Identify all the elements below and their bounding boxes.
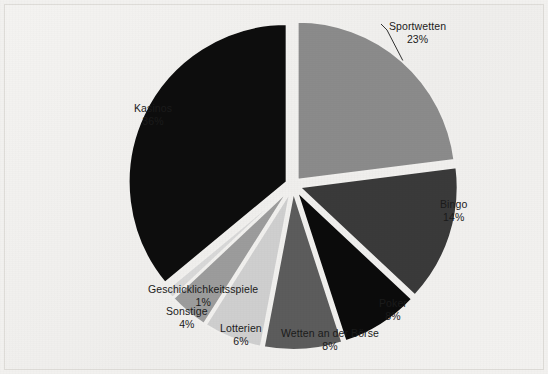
- pie-slice-label-value: 23%: [389, 33, 446, 46]
- pie-slice-label-name: Wetten an der Börse: [281, 327, 379, 340]
- pie-slice-label: Sportwetten23%: [389, 20, 446, 45]
- pie-slice-label-name: Sportwetten: [389, 20, 446, 33]
- pie-slice-label-name: Geschicklichkeitsspiele: [148, 283, 258, 296]
- pie-slice-label-name: Bingo: [440, 198, 467, 211]
- pie-slice-label: Wetten an der Börse8%: [281, 327, 379, 352]
- pie-slice-label-value: 6%: [220, 335, 262, 348]
- pie-slice-label-name: Lotterien: [220, 322, 262, 335]
- pie-slice-label-value: 4%: [166, 318, 208, 331]
- pie-slice-label-value: 36%: [134, 115, 172, 128]
- pie-slice-label: Kasinos36%: [134, 102, 172, 127]
- pie-slice-label-value: 8%: [379, 310, 407, 323]
- pie-slice[interactable]: [298, 22, 455, 180]
- pie-slice-label: Sonstige4%: [166, 305, 208, 330]
- pie-slice-label: Lotterien6%: [220, 322, 262, 347]
- pie-chart-canvas: [0, 0, 548, 374]
- pie-chart-figure: Sportwetten23%Bingo14%Poker8%Wetten an d…: [0, 0, 548, 374]
- pie-slice-label-value: 8%: [281, 340, 379, 353]
- pie-slice-label: Bingo14%: [440, 198, 467, 223]
- pie-slice-label: Poker8%: [379, 297, 407, 322]
- pie-slice-label-value: 14%: [440, 211, 467, 224]
- pie-slice-label-name: Kasinos: [134, 102, 172, 115]
- pie-slice-label-name: Poker: [379, 297, 407, 310]
- pie-slice-label-value: 1%: [148, 296, 258, 309]
- pie-slice-label: Geschicklichkeitsspiele1%: [148, 283, 258, 308]
